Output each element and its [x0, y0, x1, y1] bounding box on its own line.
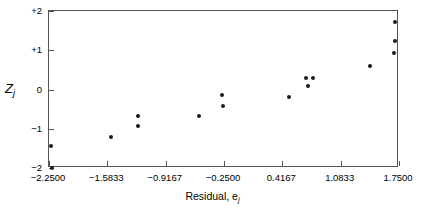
x-axis-tick-label: 1.0833	[325, 172, 354, 183]
y-axis-tick	[49, 50, 54, 51]
y-axis-tick	[49, 129, 54, 130]
data-point	[136, 124, 140, 128]
x-axis-tick	[282, 161, 283, 166]
data-point	[392, 51, 396, 55]
x-axis-tick-label: 0.4167	[267, 172, 296, 183]
data-point	[393, 20, 397, 24]
data-point	[306, 84, 310, 88]
y-axis-title-subscript: j	[13, 88, 15, 98]
data-point	[220, 93, 224, 97]
plot-area	[49, 11, 397, 166]
y-axis-tick	[49, 11, 54, 12]
y-axis-tick	[49, 90, 54, 91]
x-axis-tick	[166, 161, 167, 166]
x-axis-tick	[224, 161, 225, 166]
x-axis-title-text: Residual, e	[185, 190, 238, 202]
x-axis-title: Residual, ej	[0, 190, 425, 204]
x-axis-tick	[49, 161, 50, 166]
data-point	[368, 64, 372, 68]
x-axis-title-subscript: j	[238, 195, 240, 204]
data-point	[197, 114, 201, 118]
scatter-plot-figure: +2+10−1−2 Zj −2.2500−1.5833−0.9167−0.250…	[0, 0, 425, 212]
x-axis-tick-label: −0.2500	[206, 172, 241, 183]
x-axis-tick-label: −2.2500	[31, 172, 66, 183]
data-point	[49, 144, 53, 148]
data-point	[136, 114, 140, 118]
x-axis-tick-label: −0.9167	[147, 172, 182, 183]
data-point	[393, 39, 397, 43]
data-point	[311, 76, 315, 80]
y-axis-title: Zj	[5, 81, 15, 98]
x-axis-tick	[399, 161, 400, 166]
y-axis-tick-label: −1	[20, 122, 42, 133]
y-axis-tick-label: −2	[20, 162, 42, 173]
x-axis-tick	[341, 161, 342, 166]
data-point	[50, 166, 54, 170]
y-axis-tick-label: 0	[20, 83, 42, 94]
y-axis-tick-label: +1	[20, 44, 42, 55]
x-axis-tick-label: −1.5833	[89, 172, 124, 183]
y-axis-title-text: Z	[5, 81, 13, 96]
data-point	[221, 104, 225, 108]
plot-frame	[48, 10, 398, 167]
x-axis-tick-label: 1.7500	[383, 172, 412, 183]
data-point	[109, 135, 113, 139]
y-axis-tick-label: +2	[20, 5, 42, 16]
data-point	[304, 76, 308, 80]
x-axis-tick	[107, 161, 108, 166]
data-point	[287, 95, 291, 99]
